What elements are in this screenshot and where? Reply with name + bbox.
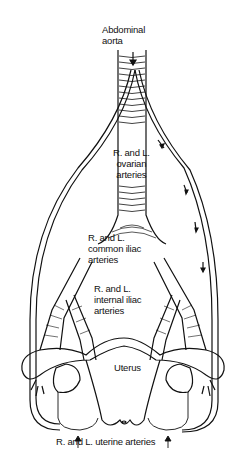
uterus [22, 338, 224, 425]
label-internal-iliac-arteries: R. and L. internal iliac arteries [94, 283, 141, 316]
label-line: aorta [102, 35, 145, 46]
label-common-iliac-arteries: R. and L. common iliac arteries [88, 232, 141, 265]
label-line: arteries [88, 254, 141, 265]
label-line: R. and L. [94, 283, 141, 294]
label-line: Abdominal [102, 24, 145, 35]
label-line: arteries [94, 305, 141, 316]
label-line: R. and L. [113, 147, 150, 158]
label-abdominal-aorta: Abdominal aorta [102, 24, 145, 46]
label-line: arteries [113, 169, 150, 180]
label-line: ovarian [113, 158, 150, 169]
label-line: internal iliac [94, 294, 141, 305]
label-ovarian-arteries: R. and L. ovarian arteries [113, 147, 150, 180]
label-line: common iliac [88, 243, 141, 254]
label-uterine-arteries: R. and L. uterine arteries [56, 436, 155, 447]
label-uterus: Uterus [114, 362, 141, 373]
label-line: R. and L. [88, 232, 141, 243]
